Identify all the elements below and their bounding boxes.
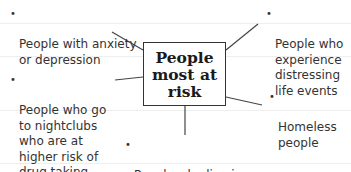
- bullet-icon: •: [10, 72, 16, 88]
- node-label: People with anxiety or depression: [19, 37, 137, 67]
- node-label: People who live in deprived areas: [134, 168, 242, 172]
- bullet-icon: •: [125, 137, 131, 153]
- bullet-icon: •: [269, 89, 275, 105]
- node-label: People who go to nightclubs who are at h…: [19, 103, 106, 172]
- node-label: Homeless people: [278, 120, 337, 150]
- node-anxiety: • People with anxiety or depression: [19, 6, 137, 68]
- bullet-icon: •: [10, 6, 16, 22]
- node-nightclubs: • People who go to nightclubs who are at…: [19, 72, 106, 172]
- bullet-icon: •: [266, 6, 272, 22]
- node-life-events: • People who experience distressing life…: [275, 6, 343, 99]
- node-homeless: • Homeless people: [278, 89, 337, 151]
- central-topic-label: People most at risk: [152, 49, 217, 100]
- central-topic: People most at risk: [143, 42, 226, 106]
- node-deprived-areas: • People who live in deprived areas: [134, 137, 242, 172]
